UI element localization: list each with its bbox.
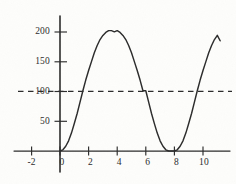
data-curve — [60, 31, 220, 151]
x-tick-label-2: 2 — [81, 158, 101, 168]
x-tick-label-6: 6 — [138, 158, 158, 168]
chart-figure: 200 150 100 50 -2 0 2 4 6 8 10 — [0, 0, 236, 184]
y-tick-label-150: 150 — [20, 57, 50, 67]
x-tick-label-8: 8 — [166, 158, 186, 168]
x-tick-label-4: 4 — [109, 158, 129, 168]
y-tick-label-100: 100 — [20, 87, 50, 97]
x-tick-label-0: 0 — [52, 158, 72, 168]
x-tick-label-10: 10 — [194, 158, 214, 168]
y-tick-label-200: 200 — [20, 27, 50, 37]
x-tick-label--2: -2 — [22, 158, 42, 168]
y-tick-label-50: 50 — [20, 117, 50, 127]
